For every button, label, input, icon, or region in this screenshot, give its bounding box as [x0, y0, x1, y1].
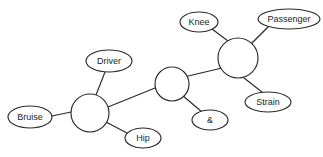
edge-hip-hubleft: [104, 121, 127, 133]
hub-node-left[interactable]: [71, 94, 109, 132]
hub-node-middle[interactable]: [155, 67, 189, 101]
leaf-amp-label: &: [207, 115, 213, 125]
edge-hubmiddle-amp: [182, 95, 202, 112]
leaf-knee-label: Knee: [188, 17, 209, 27]
node-link-graph: BruiseDriverHip&KneePassengerStrain: [0, 0, 323, 157]
edge-hubleft-hubmiddle: [108, 88, 155, 107]
leaf-driver[interactable]: Driver: [86, 50, 132, 72]
edge-strain-hubright: [244, 78, 262, 92]
edge-knee-hubright: [212, 29, 228, 41]
leaf-knee[interactable]: Knee: [180, 12, 218, 32]
leaf-hip-label: Hip: [136, 133, 150, 143]
edge-passenger-hubright: [251, 27, 268, 44]
leaf-passenger[interactable]: Passenger: [258, 9, 320, 29]
leaf-bruise[interactable]: Bruise: [8, 106, 52, 128]
leaf-strain[interactable]: Strain: [245, 92, 291, 112]
leaf-bruise-label: Bruise: [17, 112, 43, 122]
leaf-strain-label: Strain: [256, 97, 280, 107]
leaf-hip[interactable]: Hip: [125, 128, 161, 148]
edge-bruise-hubleft: [52, 112, 71, 116]
hub-node-right[interactable]: [218, 38, 258, 78]
edge-driver-hubleft: [96, 72, 105, 95]
leaf-passenger-label: Passenger: [267, 14, 310, 24]
edge-hubmiddle-hubright: [184, 68, 222, 77]
diagram-canvas: BruiseDriverHip&KneePassengerStrain: [0, 0, 323, 157]
leaf-driver-label: Driver: [97, 56, 121, 66]
leaf-amp[interactable]: &: [192, 110, 228, 130]
